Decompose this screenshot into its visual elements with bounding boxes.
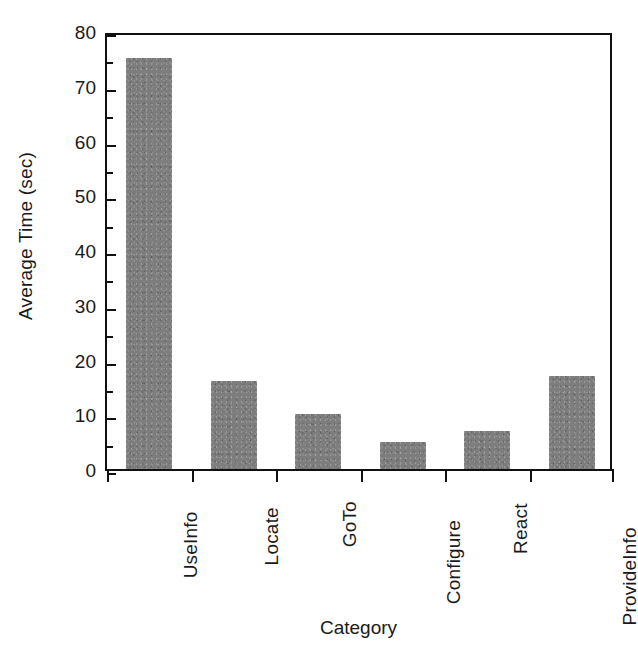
- x-axis-tick-label: GoTo: [339, 501, 361, 547]
- y-axis-tick-label: 20: [75, 351, 96, 373]
- y-axis-tick-labels: 01020304050607080: [44, 0, 96, 660]
- y-axis-minor-tick: [107, 446, 113, 448]
- y-axis-tick-label: 10: [75, 405, 96, 427]
- y-axis-minor-tick: [107, 281, 113, 283]
- x-axis-tick-labels: UseInfoLocateGoToConfigureReactProvideIn…: [105, 478, 612, 618]
- y-axis-title-text: Average Time (sec): [15, 152, 37, 320]
- x-axis-tick-label: React: [511, 503, 533, 554]
- y-axis-minor-tick: [107, 336, 113, 338]
- y-axis-major-tick: [107, 145, 116, 147]
- x-axis-tick-label: ProvideInfo: [619, 527, 638, 625]
- y-axis-major-tick: [107, 364, 116, 366]
- x-axis-title: Category: [105, 617, 612, 639]
- bar: [126, 58, 172, 469]
- x-axis-tick-label: Locate: [261, 507, 283, 565]
- x-axis-title-text: Category: [320, 617, 397, 638]
- bar: [380, 442, 426, 469]
- x-axis-tick-label: Configure: [443, 520, 465, 604]
- bar: [549, 376, 595, 469]
- x-axis-tick-label: UseInfo: [181, 511, 203, 578]
- y-axis-tick-label: 40: [75, 241, 96, 263]
- y-axis-minor-tick: [107, 227, 113, 229]
- y-axis-title: Average Time (sec): [6, 0, 46, 471]
- bar: [464, 431, 510, 469]
- y-axis-major-tick: [107, 35, 116, 37]
- y-axis-tick-label: 30: [75, 296, 96, 318]
- y-axis-major-tick: [107, 418, 116, 420]
- y-axis-minor-tick: [107, 62, 113, 64]
- bar: [295, 414, 341, 469]
- y-axis-major-tick: [107, 199, 116, 201]
- y-axis-minor-tick: [107, 172, 113, 174]
- y-axis-minor-tick: [107, 117, 113, 119]
- y-axis-major-tick: [107, 309, 116, 311]
- bar: [211, 381, 257, 469]
- y-axis-major-tick: [107, 254, 116, 256]
- x-axis-tick: [612, 469, 614, 482]
- y-axis-tick-label: 50: [75, 186, 96, 208]
- y-axis-tick-label: 80: [75, 22, 96, 44]
- y-axis-major-tick: [107, 90, 116, 92]
- y-axis-minor-tick: [107, 391, 113, 393]
- bar-chart-figure: Average Time (sec) 01020304050607080 Use…: [0, 0, 638, 660]
- plot-area: [105, 33, 612, 471]
- y-axis-tick-label: 60: [75, 132, 96, 154]
- y-axis-tick-label: 0: [85, 460, 96, 482]
- y-axis-tick-label: 70: [75, 77, 96, 99]
